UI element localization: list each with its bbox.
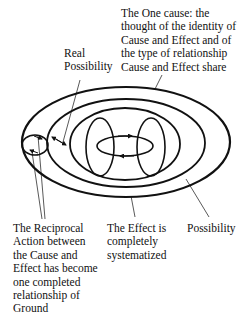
leader-line-possibility [186,179,209,217]
center-horizontal-ellipse [97,136,153,156]
label-effect-systematized: The Effect is completely systematized [107,222,166,262]
label-possibility: Possibility [187,222,236,235]
label-reciprocal-action: The Reciprocal Action between the Cause … [13,222,98,316]
leader-line-effect [131,196,135,217]
label-one-cause: The One cause: the thought of the identi… [121,7,236,74]
right-vertical-ellipse [137,118,165,176]
leader-line-reciprocal-2 [38,136,45,219]
left-vertical-ellipse [86,118,114,176]
arrow-icon [30,150,38,153]
leader-line-one-cause [155,75,162,89]
leader-line-real-possibility [63,80,80,142]
label-real-possibility: Real Possibility [64,47,113,74]
